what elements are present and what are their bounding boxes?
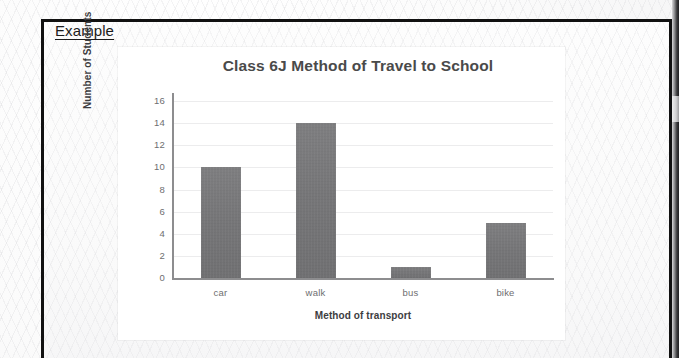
y-axis-tick-label: 12 xyxy=(135,139,165,150)
y-axis-tick-label: 0 xyxy=(135,272,165,283)
x-axis-tick-label: car xyxy=(181,287,261,298)
bar xyxy=(201,167,241,278)
bar xyxy=(391,267,431,278)
plot-area xyxy=(173,101,553,278)
bar xyxy=(296,123,336,278)
bar xyxy=(486,223,526,278)
y-axis-tick-label: 16 xyxy=(135,95,165,106)
bar-chart-figure: Class 6J Method of Travel to School Numb… xyxy=(118,47,565,340)
x-axis-tick-label: bus xyxy=(371,287,451,298)
y-axis-tick-label: 8 xyxy=(135,184,165,195)
scan-edge-notch xyxy=(672,96,679,122)
y-axis-tick-label: 6 xyxy=(135,206,165,217)
x-axis-tick-label: bike xyxy=(466,287,546,298)
y-axis-tick-label: 2 xyxy=(135,250,165,261)
x-axis-tick-label: walk xyxy=(276,287,356,298)
scan-edge-shadow xyxy=(672,0,679,358)
y-axis-tick-label: 10 xyxy=(135,161,165,172)
y-axis-tick-label: 14 xyxy=(135,117,165,128)
y-axis-tick-label: 4 xyxy=(135,228,165,239)
x-axis-line xyxy=(172,278,554,280)
chart-title: Class 6J Method of Travel to School xyxy=(158,57,558,75)
x-axis-title: Method of transport xyxy=(173,310,553,321)
y-axis-title: Number of Students xyxy=(82,12,93,109)
